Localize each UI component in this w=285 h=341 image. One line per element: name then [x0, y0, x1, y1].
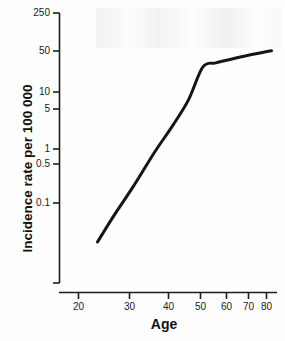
x-tick-label-40: 40	[154, 301, 183, 312]
chart-figure: 250 50 10 5 1 0.5 0.1 20 30 40 50 60 70 …	[0, 0, 285, 341]
y-axis-spine	[53, 13, 60, 283]
data-series-line	[97, 51, 271, 242]
x-axis-title: Age	[59, 316, 269, 332]
y-tick-label-250: 250	[10, 7, 50, 18]
x-tick-label-80: 80	[252, 301, 281, 312]
x-tick-label-20: 20	[64, 301, 93, 312]
x-tick-label-50: 50	[186, 301, 215, 312]
y-axis-title: Incidence rate per 100 000	[20, 49, 35, 289]
x-axis-spine	[59, 293, 277, 300]
x-tick-label-30: 30	[115, 301, 144, 312]
